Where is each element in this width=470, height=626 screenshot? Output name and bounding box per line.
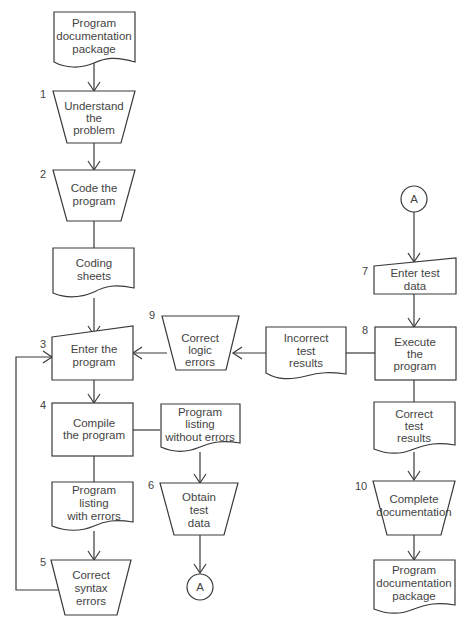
manual-operation-obtain-test-data: 6 Obtain test data xyxy=(148,479,238,535)
node-text: Coding xyxy=(76,257,112,269)
node-text: Enter test xyxy=(390,267,440,279)
node-text: Correct xyxy=(395,408,434,420)
node-text: program xyxy=(394,360,437,372)
manual-operation-understand-problem: 1 Understand the problem xyxy=(40,88,135,143)
node-text: Incorrect xyxy=(284,332,330,344)
off-page-connector-a-in: A xyxy=(401,186,427,212)
node-text: data xyxy=(404,280,427,292)
node-text: Program xyxy=(392,564,436,576)
process-compile-program: 4 Compile the program xyxy=(40,399,133,456)
manual-operation-correct-logic-errors: 9 Correct logic errors xyxy=(149,309,239,370)
node-text: Enter the xyxy=(71,343,118,355)
document-correct-test-results: Correct test results xyxy=(374,402,455,453)
node-text: logic xyxy=(188,344,212,356)
node-text: Execute xyxy=(394,336,436,348)
node-text: results xyxy=(289,357,323,369)
node-text: errors xyxy=(76,595,106,607)
process-execute-program: 8 Execute the program xyxy=(362,324,456,380)
node-text: Obtain xyxy=(182,491,216,503)
node-text: the xyxy=(86,112,102,124)
node-text: documentation xyxy=(376,577,451,589)
node-text: Program xyxy=(178,406,222,418)
node-text: program xyxy=(73,195,116,207)
node-text: Correct xyxy=(181,332,220,344)
node-text: syntax xyxy=(74,582,107,594)
manual-operation-code-program: 2 Code the program xyxy=(40,168,135,221)
node-text: package xyxy=(392,590,435,602)
connector-label: A xyxy=(410,193,418,205)
document-program-documentation-package-end: Program documentation package xyxy=(374,560,455,613)
node-text: the program xyxy=(63,429,125,441)
manual-input-enter-test-data: 7 Enter test data xyxy=(362,258,456,294)
manual-operation-complete-documentation: 10 Complete documentation xyxy=(355,480,455,535)
node-text: Correct xyxy=(72,569,111,581)
node-text: listing xyxy=(185,418,214,430)
step-number: 2 xyxy=(40,168,46,180)
step-number: 1 xyxy=(40,88,46,100)
off-page-connector-a-out: A xyxy=(187,574,213,600)
node-text: data xyxy=(188,517,211,529)
document-program-documentation-package-start: Program documentation package xyxy=(54,12,135,67)
node-text: documentation xyxy=(376,506,451,518)
manual-operation-correct-syntax-errors: 5 Correct syntax errors xyxy=(40,556,131,615)
node-text: program xyxy=(73,356,116,368)
node-text: sheets xyxy=(77,270,111,282)
node-text: without errors xyxy=(164,431,235,443)
node-text: problem xyxy=(73,124,115,136)
connector-label: A xyxy=(196,581,204,593)
document-coding-sheets: Coding sheets xyxy=(53,248,134,297)
node-text: documentation xyxy=(56,30,131,42)
node-text: Complete xyxy=(389,493,438,505)
document-program-listing-with-errors: Program listing with errors xyxy=(52,482,133,530)
step-number: 8 xyxy=(362,324,368,336)
step-number: 4 xyxy=(40,399,46,411)
node-text: listing xyxy=(79,497,108,509)
node-text: with errors xyxy=(66,510,121,522)
step-number: 10 xyxy=(355,480,367,492)
node-text: the xyxy=(407,348,423,360)
node-text: package xyxy=(72,43,115,55)
step-number: 6 xyxy=(148,479,154,491)
step-number: 5 xyxy=(40,556,46,568)
document-incorrect-test-results: Incorrect test results xyxy=(266,327,346,379)
node-text: test xyxy=(190,504,209,516)
step-number: 7 xyxy=(362,265,368,277)
step-number: 9 xyxy=(149,309,155,321)
node-text: results xyxy=(397,432,431,444)
flowchart-canvas: Program documentation package 1 Understa… xyxy=(0,0,470,626)
node-text: test xyxy=(297,345,316,357)
manual-input-enter-program: 3 Enter the program xyxy=(40,326,133,380)
node-text: errors xyxy=(185,356,215,368)
node-text: test xyxy=(405,420,424,432)
node-text: Code the xyxy=(71,182,118,194)
node-text: Program xyxy=(72,17,116,29)
node-text: Program xyxy=(72,484,116,496)
node-text: Understand xyxy=(64,100,123,112)
step-number: 3 xyxy=(40,338,46,350)
document-program-listing-without-errors: Program listing without errors xyxy=(161,404,240,451)
node-text: Compile xyxy=(73,417,115,429)
